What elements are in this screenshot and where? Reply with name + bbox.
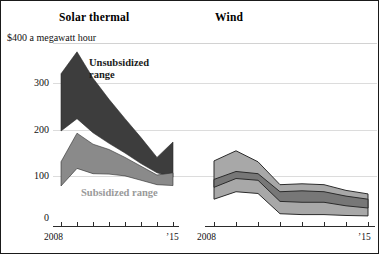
- x-tick-label-solar-end: ’15: [166, 232, 179, 242]
- x-axis-rule-solar: [53, 226, 179, 227]
- x-tick-solar-2008: [61, 222, 62, 226]
- wind-band-unsubsidized-range: [214, 151, 368, 216]
- x-tick-wind-2014: [346, 222, 347, 226]
- x-tick-solar-2009: [77, 222, 78, 226]
- wind-plot-area: [1, 1, 379, 254]
- x-tick-wind-2013: [324, 222, 325, 226]
- x-axis-rule-wind: [205, 226, 375, 227]
- x-tick-wind-2010: [258, 222, 259, 226]
- annotation-subsidized-range: Subsidized range: [81, 187, 158, 199]
- x-tick-solar-2010: [93, 222, 94, 226]
- x-tick-wind-2008: [214, 222, 215, 226]
- x-tick-label-wind-start: 2008: [197, 232, 216, 242]
- x-tick-solar-2011: [109, 222, 110, 226]
- x-tick-wind-2011: [280, 222, 281, 226]
- figure-container: Solar thermal Wind $400 a megawatt hour …: [0, 0, 379, 254]
- x-tick-wind-2009: [236, 222, 237, 226]
- x-tick-label-solar-start: 2008: [44, 232, 63, 242]
- x-tick-solar-2013: [141, 222, 142, 226]
- x-tick-solar-2012: [125, 222, 126, 226]
- annotation-unsubsidized-range: Unsubsidized range: [89, 57, 149, 81]
- x-tick-solar-2015: [173, 222, 174, 226]
- x-tick-wind-2012: [302, 222, 303, 226]
- x-tick-solar-2014: [157, 222, 158, 226]
- x-tick-label-wind-end: ’15: [358, 232, 371, 242]
- x-tick-wind-2015: [368, 222, 369, 226]
